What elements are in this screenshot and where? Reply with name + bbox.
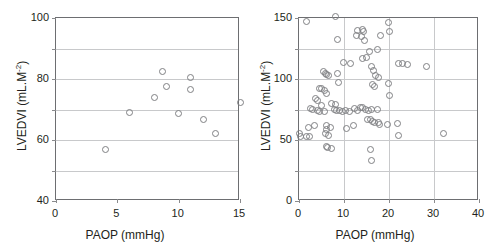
data-point xyxy=(374,106,381,113)
data-point xyxy=(386,28,393,35)
data-point xyxy=(151,94,158,101)
x-tick-label: 30 xyxy=(427,207,439,219)
data-point xyxy=(385,19,392,26)
data-point xyxy=(404,61,411,68)
data-point xyxy=(395,132,402,139)
data-point xyxy=(386,92,393,99)
plot-area-right xyxy=(298,17,478,200)
x-tick-label: 5 xyxy=(113,207,119,219)
gridline-horizontal xyxy=(299,171,477,172)
data-point xyxy=(363,54,370,61)
gridline-horizontal xyxy=(299,140,477,141)
data-point xyxy=(334,70,341,77)
x-axis-tick xyxy=(434,199,435,203)
data-point xyxy=(163,83,170,90)
data-point xyxy=(361,37,368,44)
x-tick-label: 15 xyxy=(233,207,245,219)
data-point xyxy=(374,46,381,53)
x-axis-tick xyxy=(117,199,118,203)
data-point xyxy=(332,13,339,20)
y-tick-label: 100 xyxy=(31,11,49,23)
x-tick-label: 20 xyxy=(382,207,394,219)
y-tick-label: 0 xyxy=(286,194,292,206)
x-axis-title-right: PAOP (mmHg) xyxy=(250,228,500,242)
data-point xyxy=(343,125,350,132)
data-point xyxy=(334,36,341,43)
data-point xyxy=(126,109,133,116)
data-point xyxy=(377,32,384,39)
y-axis-title-right: LVEDVI (mL.M-2) xyxy=(258,60,273,150)
gridline-horizontal xyxy=(56,171,238,172)
data-point xyxy=(371,83,378,90)
data-point xyxy=(347,60,354,67)
gridline-vertical xyxy=(389,18,390,199)
x-axis-tick xyxy=(179,199,180,203)
x-tick-label: 40 xyxy=(472,207,484,219)
x-axis-tick xyxy=(299,199,300,203)
y-axis-tick xyxy=(295,79,299,80)
x-tick-label: 0 xyxy=(295,207,301,219)
data-point xyxy=(423,63,430,70)
y-axis-tick xyxy=(52,110,56,111)
plot-area-left xyxy=(55,17,239,200)
y-axis-tick xyxy=(295,110,299,111)
data-point xyxy=(375,74,382,81)
y-axis-tick xyxy=(52,49,56,50)
data-point xyxy=(332,101,339,108)
data-point xyxy=(376,121,383,128)
data-point xyxy=(212,130,219,137)
data-point xyxy=(328,145,335,152)
y-axis-tick xyxy=(295,18,299,19)
data-point xyxy=(394,120,401,127)
x-axis-tick xyxy=(240,199,241,203)
y-tick-label: 150 xyxy=(274,11,292,23)
gridline-horizontal xyxy=(56,140,238,141)
y-axis-tick xyxy=(52,171,56,172)
y-axis-tick xyxy=(295,171,299,172)
gridline-horizontal xyxy=(56,49,238,50)
data-point xyxy=(384,121,391,128)
y-tick-label: 40 xyxy=(37,194,49,206)
y-axis-title-exponent: -2 xyxy=(258,64,267,71)
x-axis-tick xyxy=(479,199,480,203)
data-point xyxy=(368,63,375,70)
data-point xyxy=(340,59,347,66)
x-axis-tick xyxy=(389,199,390,203)
chart-panel-right: LVEDVI (mL.M-2) 050100150 010203040 PAOP… xyxy=(250,0,500,251)
x-axis-tick xyxy=(56,199,57,203)
y-tick-label: 80 xyxy=(37,72,49,84)
y-tick-label: 50 xyxy=(280,133,292,145)
data-point xyxy=(159,68,166,75)
data-point xyxy=(102,146,109,153)
x-tick-label: 0 xyxy=(52,207,58,219)
data-point xyxy=(187,86,194,93)
chart-panel-left: LVEDVI (mL.M-2) 406080100 051015 PAOP (m… xyxy=(0,0,250,251)
data-point xyxy=(440,130,447,137)
x-axis-tick xyxy=(344,199,345,203)
gridline-horizontal xyxy=(56,110,238,111)
data-point xyxy=(385,80,392,87)
data-point xyxy=(368,157,375,164)
data-point xyxy=(311,122,318,129)
data-point xyxy=(323,90,330,97)
y-axis-title-left: LVEDVI (mL.M-2) xyxy=(14,60,29,150)
x-tick-label: 10 xyxy=(337,207,349,219)
data-point xyxy=(237,99,244,106)
data-point xyxy=(350,122,357,129)
y-axis-tick xyxy=(52,140,56,141)
data-point xyxy=(187,74,194,81)
x-axis-title-left: PAOP (mmHg) xyxy=(0,228,250,242)
y-axis-title-exponent: -2 xyxy=(14,64,23,71)
y-tick-label: 60 xyxy=(37,133,49,145)
gridline-vertical xyxy=(434,18,435,199)
x-tick-label: 10 xyxy=(172,207,184,219)
data-point xyxy=(367,146,374,153)
y-axis-tick xyxy=(295,140,299,141)
gridline-horizontal xyxy=(56,79,238,80)
data-point xyxy=(303,18,310,25)
data-point xyxy=(175,110,182,117)
y-tick-label: 100 xyxy=(274,72,292,84)
y-axis-tick xyxy=(52,18,56,19)
data-point xyxy=(200,116,207,123)
y-axis-tick xyxy=(52,79,56,80)
